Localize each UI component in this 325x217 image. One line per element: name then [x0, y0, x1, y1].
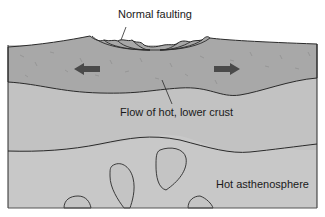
upper-crust-layer	[8, 36, 317, 95]
hot-asthenosphere-label: Hot asthenosphere	[216, 178, 309, 190]
faulting-leader-line	[121, 27, 126, 40]
flow-lower-crust-label: Flow of hot, lower crust	[120, 106, 233, 118]
normal-faulting-label: Normal faulting	[118, 8, 192, 20]
